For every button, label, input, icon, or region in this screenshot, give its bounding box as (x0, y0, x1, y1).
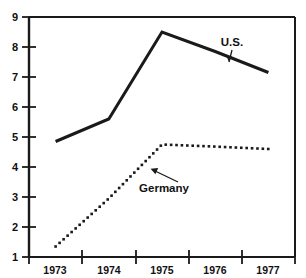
series-germany-dot (66, 234, 69, 237)
series-germany-dot (98, 205, 101, 208)
series-germany-dot (240, 146, 243, 149)
series-germany-dot (122, 183, 125, 186)
series-germany-dot (267, 148, 270, 151)
y-tick-label-6: 6 (12, 101, 18, 113)
series-germany-dot (86, 216, 89, 219)
series-germany-dot (181, 144, 184, 147)
series-germany-dot (202, 145, 205, 148)
line-chart: 9 8 7 6 5 4 3 2 1 1973 1974 1975 1976 19… (0, 0, 306, 278)
series-line-us (56, 32, 269, 142)
series-germany-dot (245, 147, 248, 150)
series-germany-dot (118, 187, 121, 190)
series-germany-dot (152, 152, 155, 155)
series-germany-dot (191, 144, 194, 147)
series-germany-dot (186, 144, 189, 147)
y-tick-label-1: 1 (12, 251, 18, 263)
series-germany-dot (78, 224, 81, 227)
series-germany-dot (229, 146, 232, 149)
annotation-germany: Germany (139, 168, 189, 194)
series-germany-dot (129, 175, 132, 178)
series-germany-dot (262, 147, 265, 150)
series-germany-dot (170, 144, 173, 147)
series-germany-dot (144, 160, 147, 163)
series-germany-dot (125, 179, 128, 182)
series-germany-dot (235, 146, 238, 149)
series-germany-dot (164, 143, 167, 146)
series-germany-dot (114, 191, 117, 194)
y-tick-label-5: 5 (12, 131, 18, 143)
series-germany-dot (54, 245, 57, 248)
series-germany-dot (133, 171, 136, 174)
series-germany-dot (256, 147, 259, 150)
x-tick-label-1975: 1975 (150, 264, 174, 276)
series-label-germany: Germany (139, 182, 189, 194)
y-tick-label-4: 4 (12, 161, 19, 173)
x-tick-label-1974: 1974 (97, 264, 121, 276)
series-germany-dot (141, 164, 144, 167)
series-germany-dot (70, 231, 73, 234)
series-germany-dot (110, 194, 113, 197)
series-germany-dot (224, 146, 227, 149)
data-series-group (54, 32, 269, 248)
y-tick-label-8: 8 (12, 41, 18, 53)
series-germany-dot (156, 148, 159, 151)
y-tick-label-2: 2 (12, 221, 18, 233)
y-tick-label-3: 3 (12, 191, 18, 203)
y-tick-label-9: 9 (12, 11, 18, 23)
germany-leader-line (153, 170, 178, 182)
series-germany-dot (90, 213, 93, 216)
series-germany-dot (58, 242, 61, 245)
series-germany-dot (94, 209, 97, 212)
series-germany-dot (137, 167, 140, 170)
chart-figure: 9 8 7 6 5 4 3 2 1 1973 1974 1975 1976 19… (0, 0, 306, 278)
series-germany-dot (74, 227, 77, 230)
series-germany-dot (213, 145, 216, 148)
series-germany-dot (160, 144, 163, 147)
x-axis-tick-labels: 1973 1974 1975 1976 1977 (43, 264, 280, 276)
x-tick-label-1976: 1976 (203, 264, 227, 276)
series-germany-dot (251, 147, 254, 150)
y-tick-label-7: 7 (12, 71, 18, 83)
series-label-us: U.S. (221, 36, 243, 48)
series-germany-dot (62, 238, 65, 241)
series-germany-dot (102, 202, 105, 205)
series-germany-dot (148, 156, 151, 159)
series-germany-dot (197, 145, 200, 148)
series-germany-dot (106, 198, 109, 201)
series-germany-dot (208, 145, 211, 148)
series-germany-dot (218, 146, 221, 149)
germany-leader-arrowhead (151, 168, 159, 174)
x-tick-label-1973: 1973 (43, 264, 67, 276)
series-line-germany (54, 143, 269, 247)
y-axis-tick-labels: 9 8 7 6 5 4 3 2 1 (12, 11, 19, 263)
x-tick-label-1977: 1977 (256, 264, 280, 276)
series-germany-dot (82, 220, 85, 223)
series-germany-dot (175, 144, 178, 147)
